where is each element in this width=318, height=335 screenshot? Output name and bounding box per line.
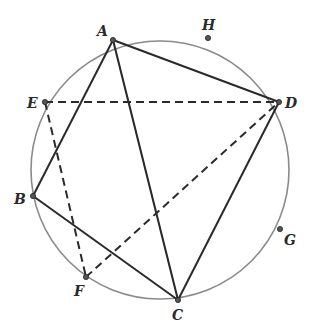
segment-AD xyxy=(113,40,279,102)
point-labels: AHEDBGFC xyxy=(13,17,298,323)
point-A xyxy=(110,37,115,42)
label-C: C xyxy=(172,307,183,323)
point-E xyxy=(42,99,47,104)
label-F: F xyxy=(73,283,85,299)
label-G: G xyxy=(284,232,296,248)
point-F xyxy=(83,274,88,279)
segment-EF xyxy=(45,102,86,277)
segment-CD xyxy=(178,102,279,300)
point-G xyxy=(277,226,282,231)
dashed-segments xyxy=(45,102,279,277)
label-B: B xyxy=(13,191,26,207)
solid-segments xyxy=(33,40,279,300)
segment-FD xyxy=(86,102,279,277)
segment-AB xyxy=(33,40,113,196)
label-D: D xyxy=(284,95,298,111)
point-D xyxy=(276,99,281,104)
point-B xyxy=(30,193,35,198)
circumcircle xyxy=(31,41,289,299)
point-C xyxy=(175,297,180,302)
point-H xyxy=(205,35,210,40)
geometry-diagram: AHEDBGFC xyxy=(0,0,318,335)
label-H: H xyxy=(201,17,216,33)
label-E: E xyxy=(26,95,38,111)
label-A: A xyxy=(95,23,108,39)
